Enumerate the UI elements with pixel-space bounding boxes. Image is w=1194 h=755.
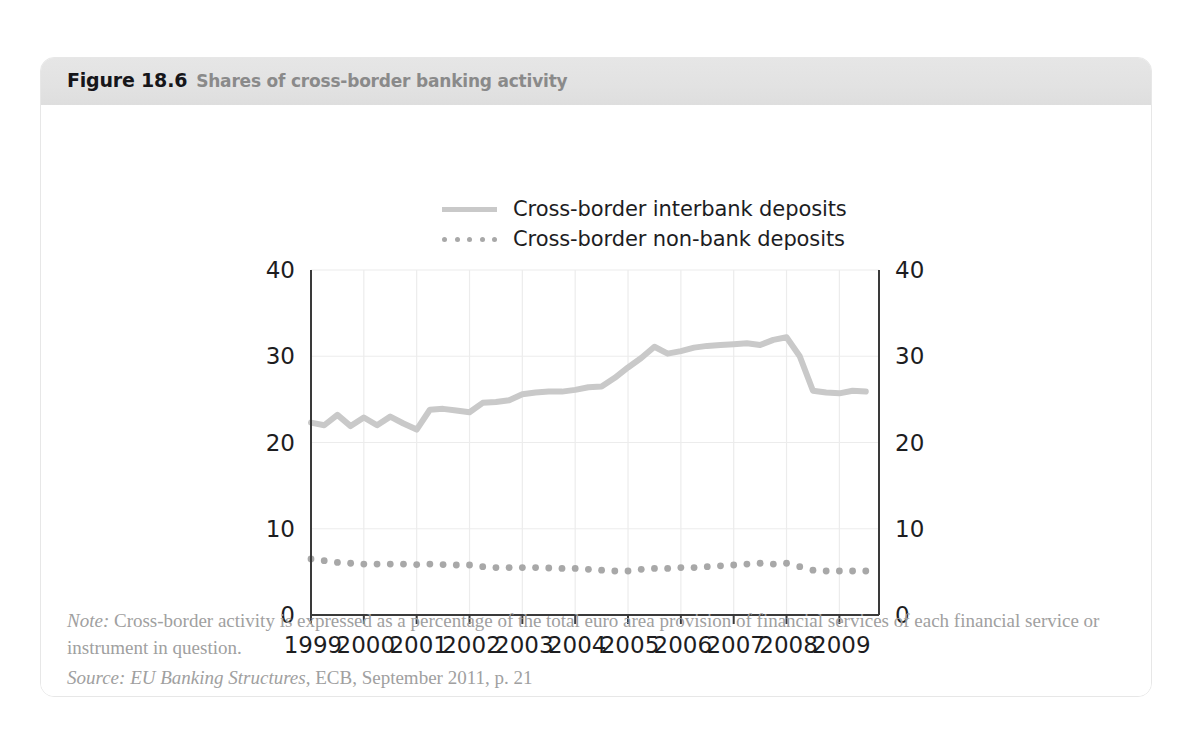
svg-text:40: 40 [266,257,295,283]
svg-text:30: 30 [266,343,295,369]
source-line: Source: EU Banking Structures, ECB, Sept… [67,664,1117,691]
source-title: EU Banking Structures [125,667,305,688]
figure-body: Cross-border interbank deposits Cross-bo… [41,105,1151,697]
figure-header-text: Figure 18.6Shares of cross-border bankin… [67,69,568,91]
figure-footnotes: Note: Cross-border activity is expressed… [67,607,1117,691]
figure-number: Figure 18.6 [67,69,187,91]
svg-text:20: 20 [895,430,924,456]
figure-card: Figure 18.6Shares of cross-border bankin… [40,57,1152,697]
source-prefix: Source: [67,667,125,688]
note-prefix: Note: [67,610,109,631]
note-text: Cross-border activity is expressed as a … [67,610,1099,658]
note-line: Note: Cross-border activity is expressed… [67,607,1117,661]
svg-text:30: 30 [895,343,924,369]
figure-caption: Shares of cross-border banking activity [196,71,567,91]
svg-text:20: 20 [266,430,295,456]
svg-text:10: 10 [895,516,924,542]
source-rest: , ECB, September 2011, p. 21 [306,667,533,688]
page: Figure 18.6Shares of cross-border bankin… [0,0,1194,755]
svg-text:40: 40 [895,257,924,283]
figure-header-band: Figure 18.6Shares of cross-border bankin… [41,58,1151,105]
svg-text:10: 10 [266,516,295,542]
